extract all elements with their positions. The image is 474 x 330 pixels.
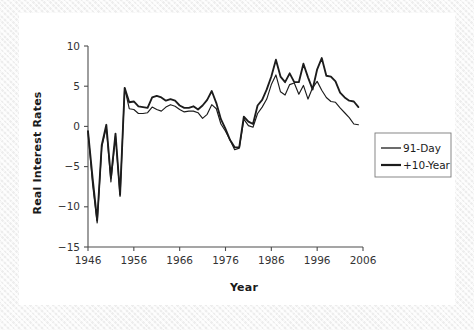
y-tick-label: 5 [73, 80, 80, 92]
chart-legend[interactable]: 91-Day+10-Year [375, 133, 451, 177]
y-tick-label: −10 [58, 200, 80, 212]
y-tick-label: 0 [73, 120, 80, 132]
y-tick-label: 10 [67, 40, 80, 52]
x-tick-label: 1986 [258, 254, 285, 266]
legend-label-2[interactable]: +10-Year [403, 159, 451, 171]
y-tick-label: −15 [58, 241, 80, 253]
x-tick-label: 2006 [350, 254, 377, 266]
real-interest-rates-line-chart: 1050−5−10−151946195619661976198619962006… [19, 13, 455, 305]
x-axis-title: Year [229, 281, 258, 294]
x-tick-label: 1946 [75, 254, 102, 266]
x-tick-label: 1956 [120, 254, 147, 266]
x-tick-label: 1996 [304, 254, 331, 266]
x-tick-label: 1976 [212, 254, 239, 266]
y-axis-title: Real Interest Rates [31, 91, 44, 214]
legend-label-1[interactable]: 91-Day [403, 142, 441, 154]
data-series [88, 58, 358, 223]
figure-root: 1050−5−10−151946195619661976198619962006… [0, 0, 474, 330]
x-tick-label: 1966 [166, 254, 193, 266]
y-tick-label: −5 [65, 160, 80, 172]
figure-canvas: 1050−5−10−151946195619661976198619962006… [19, 13, 455, 305]
axes: 1050−5−10−151946195619661976198619962006 [58, 40, 377, 266]
